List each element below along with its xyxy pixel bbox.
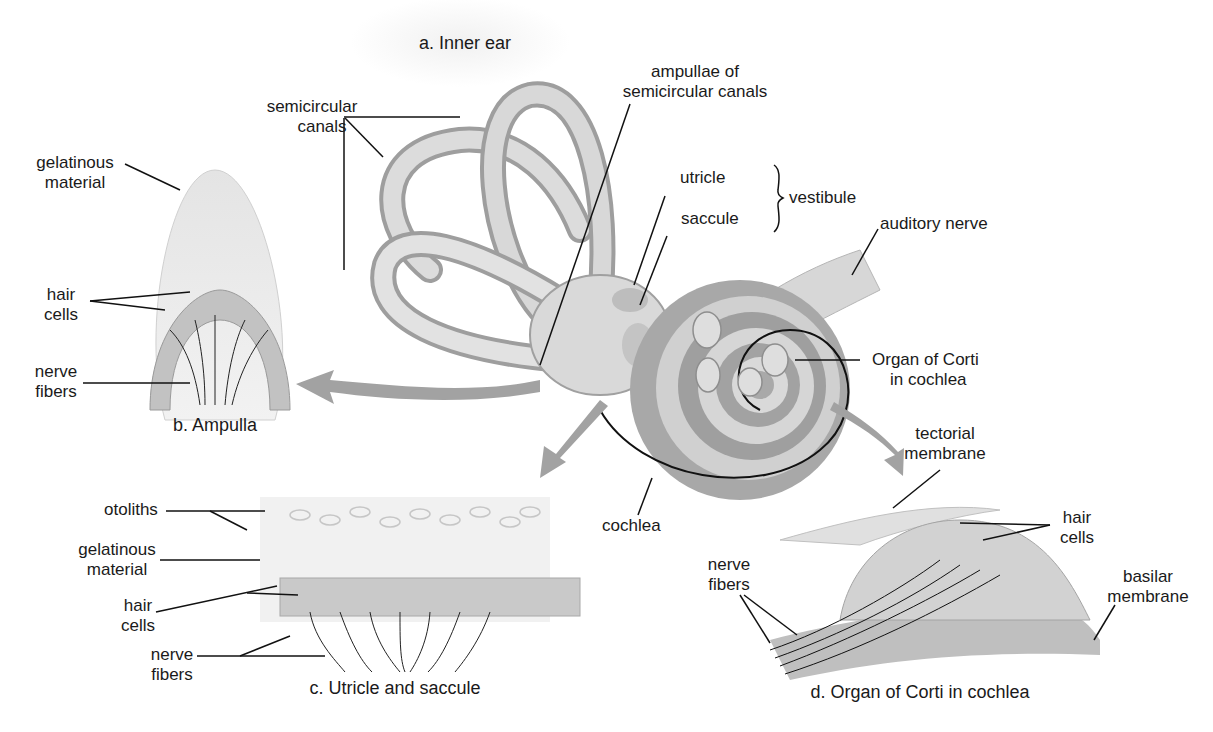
label-line: cells — [1055, 528, 1099, 548]
label-utricle-hair-cells: hair cells — [118, 596, 158, 636]
label-utricle: utricle — [680, 168, 725, 188]
label-line: gelatinous — [30, 153, 120, 173]
vestibule-brace — [774, 165, 783, 232]
label-line: hair — [36, 285, 86, 305]
inner-ear-drawing — [383, 94, 880, 500]
label-line: cells — [36, 305, 86, 325]
label-line: material — [76, 560, 158, 580]
label-line: hair — [118, 596, 158, 616]
label-line: tectorial — [900, 424, 990, 444]
label-line: nerve — [703, 555, 755, 575]
label-ampulla-hair-cells: hair cells — [36, 285, 86, 325]
utricle-saccule-drawing — [260, 497, 580, 672]
label-line: Organ of Corti — [872, 350, 979, 370]
label-line: canals — [262, 117, 362, 137]
label-basilar-membrane: basilar membrane — [1098, 567, 1198, 607]
label-line: gelatinous — [76, 540, 158, 560]
label-line: hair — [1055, 508, 1099, 528]
label-organ-of-corti: Organ of Corti in cochlea — [872, 350, 979, 390]
label-ampulla-gelatinous: gelatinous material — [30, 153, 120, 193]
label-corti-hair-cells: hair cells — [1055, 508, 1099, 548]
label-otoliths: otoliths — [104, 500, 158, 520]
label-line: cells — [118, 616, 158, 636]
label-line: membrane — [900, 444, 990, 464]
label-line: nerve — [30, 362, 82, 382]
label-semicircular-canals: semicircular canals — [262, 97, 362, 137]
label-ampulla-nerve-fibers: nerve fibers — [30, 362, 82, 402]
caption-utricle-saccule: c. Utricle and saccule — [295, 678, 495, 698]
label-line: in cochlea — [872, 370, 979, 390]
label-vestibule: vestibule — [789, 188, 856, 208]
label-saccule: saccule — [681, 209, 739, 229]
caption-inner-ear: a. Inner ear — [395, 33, 535, 53]
inner-ear-illustration — [0, 0, 1213, 732]
label-line: fibers — [30, 382, 82, 402]
label-ampullae: ampullae of semicircular canals — [605, 62, 785, 102]
label-utricle-gelatinous: gelatinous material — [76, 540, 158, 580]
label-line: membrane — [1098, 587, 1198, 607]
label-auditory-nerve: auditory nerve — [880, 214, 988, 234]
label-corti-nerve-fibers: nerve fibers — [703, 555, 755, 595]
caption-ampulla: b. Ampulla — [160, 415, 270, 435]
label-line: basilar — [1098, 567, 1198, 587]
label-line: semicircular canals — [605, 82, 785, 102]
label-tectorial-membrane: tectorial membrane — [900, 424, 990, 464]
label-line: nerve — [148, 645, 196, 665]
caption-organ-of-corti: d. Organ of Corti in cochlea — [790, 682, 1050, 702]
label-cochlea: cochlea — [602, 516, 661, 536]
label-line: fibers — [148, 665, 196, 685]
label-line: semicircular — [262, 97, 362, 117]
label-utricle-nerve-fibers: nerve fibers — [148, 645, 196, 685]
label-line: fibers — [703, 575, 755, 595]
organ-of-corti-drawing — [770, 507, 1100, 680]
label-line: material — [30, 173, 120, 193]
label-line: ampullae of — [605, 62, 785, 82]
